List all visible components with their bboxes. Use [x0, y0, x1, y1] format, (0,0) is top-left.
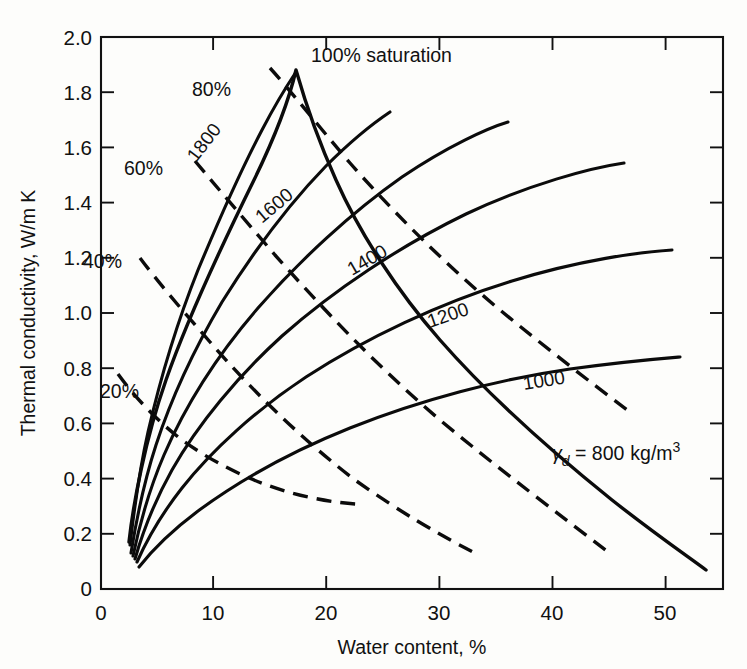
y-tick-label-2.0: 2.0 [64, 26, 93, 49]
y-tick-label-1.0: 1.0 [64, 301, 93, 324]
x-tick-label-30: 30 [428, 601, 451, 624]
y-tick-label-0.4: 0.4 [64, 467, 93, 490]
annotation-density-1800: 1800 [183, 119, 226, 165]
gamma-equals: = [570, 442, 592, 464]
annotation-density-1200: 1200 [424, 298, 471, 332]
y-tick-label-0.2: 0.2 [64, 522, 93, 545]
x-tick-label-0: 0 [95, 601, 106, 624]
annotation-gamma-d-800: γd = 800kg/m3 [552, 439, 681, 469]
svg-text:γd = 800kg/m3: γd = 800kg/m3 [552, 439, 681, 469]
x-tick-label-20: 20 [315, 601, 338, 624]
x-tick-label-50: 50 [654, 601, 677, 624]
y-tick-label-1.6: 1.6 [64, 136, 93, 159]
annotation-density-1600: 1600 [251, 184, 297, 227]
annotation-80-percent: 80% [192, 78, 231, 100]
y-tick-label-0.8: 0.8 [64, 357, 93, 380]
y-axis-title: Thermal conductivity, W/m K [17, 190, 39, 437]
x-axis-title: Water content, % [338, 636, 487, 658]
annotation-40-percent: 40% [83, 250, 122, 272]
chart-text-layer: 2.0 1.8 1.6 1.4 1.2 1.0 0.8 0.6 0.4 0.2 … [0, 0, 747, 669]
annotation-density-1400: 1400 [344, 240, 391, 279]
x-tick-label-10: 10 [202, 601, 225, 624]
gamma-unit: kg/m [630, 442, 672, 464]
thermal-conductivity-figure: 2.0 1.8 1.6 1.4 1.2 1.0 0.8 0.6 0.4 0.2 … [0, 0, 747, 669]
x-tick-label-40: 40 [541, 601, 564, 624]
y-tick-label-1.4: 1.4 [64, 191, 93, 214]
y-tick-label-0.6: 0.6 [64, 412, 93, 435]
annotation-20-percent: 20% [100, 380, 139, 402]
annotation-60-percent: 60% [124, 157, 163, 179]
annotation-100-saturation: 100% saturation [311, 44, 452, 66]
gamma-value: 800 [592, 442, 625, 464]
y-tick-label-1.8: 1.8 [64, 81, 93, 104]
y-tick-label-0: 0 [81, 577, 92, 600]
gamma-exponent: 3 [673, 439, 681, 455]
annotation-density-1000: 1000 [521, 367, 566, 394]
